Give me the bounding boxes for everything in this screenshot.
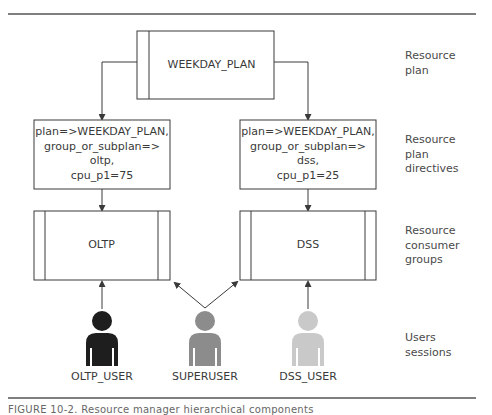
oltp-user-icon	[86, 311, 118, 366]
dss-user-label: DSS_USER	[268, 370, 348, 385]
label-line: groups	[405, 253, 459, 268]
directive-line: oltp,	[34, 154, 170, 169]
oltp-group-name: OLTP	[45, 238, 158, 253]
plan-to-dss-directive-connector	[274, 62, 308, 119]
directive-line: dss,	[240, 154, 376, 169]
directive-line: plan=>WEEKDAY_PLAN,	[240, 125, 376, 140]
level-label-directives: Resource plan directives	[405, 133, 459, 177]
level-label-user-sessions: Users sessions	[405, 331, 451, 360]
directive-line: cpu_p1=75	[34, 169, 170, 184]
level-label-consumer-groups: Resource consumer groups	[405, 224, 459, 268]
oltp-user-label: OLTP_USER	[62, 370, 142, 385]
directive-line: group_or_subplan=>	[34, 140, 170, 155]
label-line: Users	[405, 331, 451, 346]
label-line: directives	[405, 162, 459, 177]
label-line: plan	[405, 148, 459, 163]
directive-line: cpu_p1=25	[240, 169, 376, 184]
oltp-directive-text: plan=>WEEKDAY_PLAN, group_or_subplan=> o…	[34, 125, 170, 183]
superuser-label: SUPERUSER	[165, 370, 245, 385]
plan-to-oltp-directive-connector	[102, 62, 137, 119]
label-line: consumer	[405, 239, 459, 254]
superuser-icon	[189, 311, 221, 366]
label-line: Resource	[405, 224, 459, 239]
resource-plan-name: WEEKDAY_PLAN	[149, 58, 274, 73]
figure-caption: FIGURE 10-2. Resource manager hierarchic…	[8, 404, 314, 415]
label-line: plan	[405, 64, 455, 79]
dss-user-icon	[292, 311, 324, 366]
label-line: Resource	[405, 49, 455, 64]
directive-line: group_or_subplan=>	[240, 140, 376, 155]
label-line: Resource	[405, 133, 459, 148]
label-line: sessions	[405, 346, 451, 361]
level-label-resource-plan: Resource plan	[405, 49, 455, 78]
dss-directive-text: plan=>WEEKDAY_PLAN, group_or_subplan=> d…	[240, 125, 376, 183]
superuser-to-oltp-arrow	[175, 283, 205, 308]
dss-group-name: DSS	[251, 238, 365, 253]
directive-line: plan=>WEEKDAY_PLAN,	[34, 125, 170, 140]
superuser-to-dss-arrow	[205, 282, 237, 308]
